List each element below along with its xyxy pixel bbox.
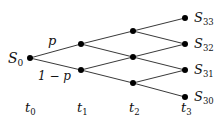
node-t3-32 <box>182 41 188 47</box>
node-t2-1 <box>130 54 136 60</box>
node-t1-up <box>78 41 84 47</box>
node-t1-down <box>78 67 84 73</box>
time-label-t1: t1 <box>77 100 88 117</box>
edge-label-up: p <box>48 33 57 48</box>
terminal-label-32: S32 <box>194 36 214 53</box>
tree-edges <box>30 18 185 97</box>
edge-label-down: 1 − p <box>38 69 71 83</box>
terminal-label-30: S30 <box>194 89 214 106</box>
node-t3-33 <box>182 15 188 21</box>
terminal-label-31: S31 <box>194 62 214 79</box>
node-t0 <box>27 55 33 61</box>
node-t2-2 <box>130 80 136 86</box>
terminal-label-33: S33 <box>194 10 214 27</box>
time-label-t0: t0 <box>25 100 36 117</box>
time-label-t3: t3 <box>181 100 192 117</box>
start-label: S0 <box>8 50 24 68</box>
node-t3-31 <box>182 67 188 73</box>
node-t2-0 <box>130 28 136 34</box>
binomial-tree-diagram: S0 p 1 − p S33 S32 S31 S30 t0 t1 t2 t3 <box>0 0 224 121</box>
tree-nodes <box>27 15 188 100</box>
time-label-t2: t2 <box>129 100 140 117</box>
